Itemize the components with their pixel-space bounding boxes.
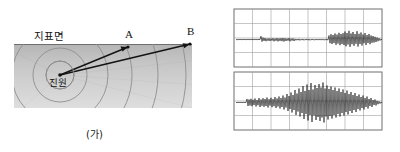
figure-root: 지표면 진원 A B (가) — [0, 0, 400, 152]
station-marker-b — [188, 42, 191, 45]
caption-left-panel: (가) — [86, 126, 103, 141]
panel-seismograms: P Q (나) — [200, 0, 400, 152]
seismogram-svg — [200, 0, 400, 152]
panel-earthquake-diagram: 지표면 진원 A B (가) — [0, 0, 200, 152]
seismogram-p — [234, 9, 382, 67]
station-label-a: A — [125, 28, 133, 40]
surface-label: 지표면 — [34, 30, 64, 42]
station-marker-a — [126, 45, 129, 48]
focus-label: 진원 — [49, 77, 67, 88]
station-label-b: B — [187, 25, 194, 37]
seismogram-q — [234, 72, 382, 130]
